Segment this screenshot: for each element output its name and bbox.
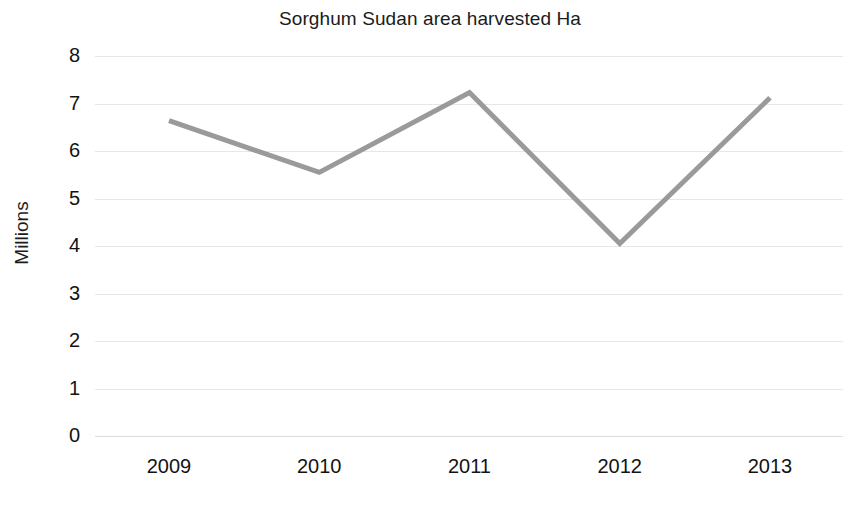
- plot-area: 012345678 20092010201120122013: [0, 0, 860, 507]
- data-series-layer: [0, 0, 860, 507]
- chart-container: Sorghum Sudan area harvested Ha Millions…: [0, 0, 860, 507]
- line-series-sorghum: [169, 93, 770, 244]
